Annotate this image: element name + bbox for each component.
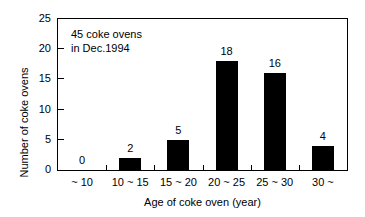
plot-area: 45 coke ovens in Dec.1994 xyxy=(57,18,348,171)
x-axis-tick xyxy=(251,165,252,170)
y-axis-tick-label: 5 xyxy=(27,134,51,145)
bar xyxy=(167,140,189,170)
bar-value-label: 5 xyxy=(158,125,198,136)
bar xyxy=(312,146,334,170)
y-axis-tick xyxy=(58,139,64,140)
y-axis-tick-label: 10 xyxy=(27,104,51,115)
y-axis-tick-label: 0 xyxy=(27,164,51,175)
bar-value-label: 0 xyxy=(62,155,102,166)
bar-value-label: 4 xyxy=(303,131,343,142)
x-axis-tick xyxy=(154,165,155,170)
bar-value-label: 2 xyxy=(110,143,150,154)
annotation-line-2: in Dec.1994 xyxy=(71,41,142,55)
bar xyxy=(216,61,238,170)
bar xyxy=(264,73,286,170)
y-axis-tick xyxy=(58,109,64,110)
annotation-line-1: 45 coke ovens xyxy=(71,27,142,41)
x-axis-title: Age of coke oven (year) xyxy=(57,196,348,208)
x-axis-tick-label: 30 ~ xyxy=(293,176,353,188)
bar-value-label: 16 xyxy=(255,58,295,69)
y-axis-tick-label: 15 xyxy=(27,73,51,84)
y-axis-tick-label: 20 xyxy=(27,43,51,54)
x-axis-tick xyxy=(203,165,204,170)
y-axis-tick-label: 25 xyxy=(27,13,51,24)
x-axis-tick xyxy=(299,165,300,170)
bar-chart-figure: Number of coke ovens 0510152025 45 coke … xyxy=(0,0,365,217)
plot-inner: 45 coke ovens in Dec.1994 xyxy=(58,19,347,170)
bar-value-label: 18 xyxy=(207,46,247,57)
chart-annotation: 45 coke ovens in Dec.1994 xyxy=(71,27,142,55)
y-axis-tick xyxy=(58,78,64,79)
x-axis-tick xyxy=(106,165,107,170)
y-axis-tick xyxy=(58,48,64,49)
y-axis-tick xyxy=(58,18,64,19)
bar xyxy=(119,158,141,170)
